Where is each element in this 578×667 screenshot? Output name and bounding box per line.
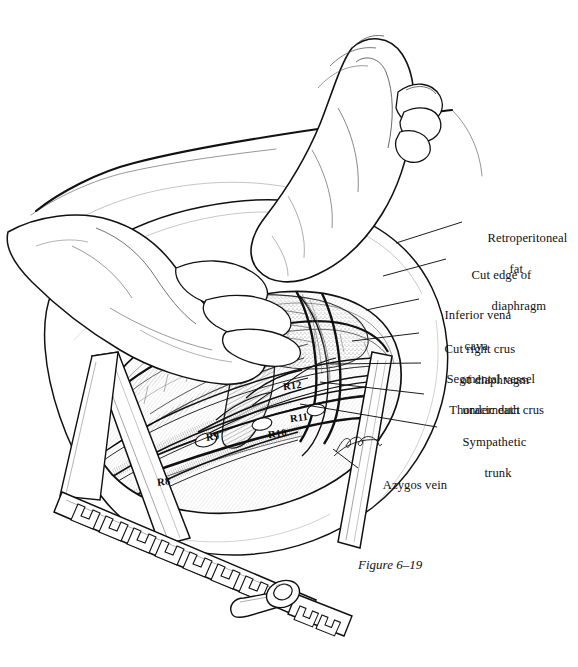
label-line-1: Cut right crus xyxy=(445,342,516,356)
label-line-1: Sympathetic xyxy=(463,435,527,449)
label-line-1: Cut edge of xyxy=(472,268,532,282)
rib-tag-r8: R8 xyxy=(156,475,170,487)
surgeon-right-hand xyxy=(251,36,442,282)
label-sympathetic-trunk: Sympathetic trunk xyxy=(443,419,527,497)
surgical-illustration-figure: Retroperitoneal fat Cut edge of diaphrag… xyxy=(0,0,578,667)
label-line-1: Thoracic duct xyxy=(449,403,520,417)
label-line-1: Segmental vessel xyxy=(447,372,536,386)
leader-retroperitoneal-fat xyxy=(396,222,462,243)
label-line-1: Retroperitoneal xyxy=(488,231,568,245)
label-line-2: trunk xyxy=(485,466,512,482)
retractor-secondary-rack xyxy=(288,594,352,636)
label-line-1: Inferior vena xyxy=(445,308,512,322)
label-azygos-vein: Azygos vein xyxy=(364,462,447,509)
rib-tag-r9: R9 xyxy=(205,430,220,443)
label-line-1: Azygos vein xyxy=(383,478,447,492)
figure-caption: Figure 6–19 xyxy=(358,557,422,573)
right-hand-fingers xyxy=(396,84,443,162)
